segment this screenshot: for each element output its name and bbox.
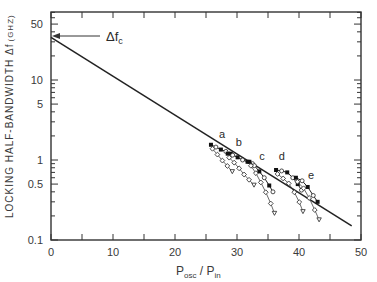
data-series: abcde — [51, 37, 352, 225]
open-marker — [271, 190, 275, 194]
filled-marker — [316, 200, 320, 204]
y-tick-label: 0.1 — [28, 234, 43, 246]
series-b: b — [226, 136, 257, 187]
y-tick-label: 1 — [37, 154, 43, 166]
open-marker — [241, 158, 245, 162]
filled-marker — [236, 155, 240, 159]
series-label-a: a — [219, 128, 226, 140]
x-tick-label: 10 — [107, 246, 119, 258]
filled-marker — [267, 184, 271, 188]
open-marker — [231, 153, 235, 157]
series-label-b: b — [236, 136, 242, 148]
open-marker — [280, 169, 284, 173]
series-label-c: c — [259, 150, 265, 162]
chart: 0.10.5151050 01020304050 abcde Δfc Posc … — [0, 0, 377, 282]
annotation-label: Δfc — [106, 29, 123, 46]
x-axis-ticks — [51, 12, 361, 240]
open-diamond-marker — [312, 208, 317, 213]
series-label-d: d — [279, 150, 285, 162]
y-tick-label: 50 — [31, 18, 43, 30]
filled-marker — [285, 170, 289, 174]
open-diamond-marker — [258, 180, 263, 185]
open-triangle-marker — [301, 210, 305, 214]
y-axis-ticks — [51, 12, 361, 240]
y-axis-tick-labels: 0.10.5151050 — [28, 18, 43, 246]
open-marker — [300, 179, 304, 183]
x-tick-label: 50 — [355, 246, 367, 258]
x-axis-tick-labels: 01020304050 — [48, 246, 367, 258]
x-axis-title: Posc / Pin — [176, 264, 221, 280]
plot-frame — [51, 12, 361, 240]
y-tick-label: 0.5 — [28, 178, 43, 190]
y-axis-title: LOCKING HALF-BANDWIDTH Δf(GHZ) — [4, 14, 15, 218]
open-diamond-marker — [263, 190, 268, 195]
x-tick-label: 30 — [231, 246, 243, 258]
open-diamond-marker — [268, 201, 273, 206]
open-diamond-marker — [297, 200, 302, 205]
open-triangle-marker — [317, 218, 321, 222]
x-tick-label: 20 — [169, 246, 181, 258]
y-tick-label: 10 — [31, 74, 43, 86]
series-e: e — [294, 169, 321, 222]
open-triangle-marker — [272, 211, 276, 215]
filled-marker — [219, 148, 223, 152]
open-marker — [311, 193, 315, 197]
x-tick-label: 40 — [293, 246, 305, 258]
delta-fc-annotation: Δfc — [52, 29, 123, 46]
open-triangle-marker — [230, 170, 234, 174]
y-tick-label: 5 — [37, 98, 43, 110]
x-tick-label: 0 — [48, 246, 54, 258]
series-label-e: e — [308, 169, 314, 181]
open-marker — [262, 176, 266, 180]
open-triangle-marker — [252, 183, 256, 187]
